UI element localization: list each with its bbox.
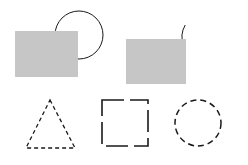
shapes-svg-canvas xyxy=(0,0,248,165)
filled-rectangle-left xyxy=(15,31,78,77)
filled-rectangle-right xyxy=(126,39,186,84)
canvas-background xyxy=(0,0,248,165)
shapes-canvas-root xyxy=(0,0,248,165)
